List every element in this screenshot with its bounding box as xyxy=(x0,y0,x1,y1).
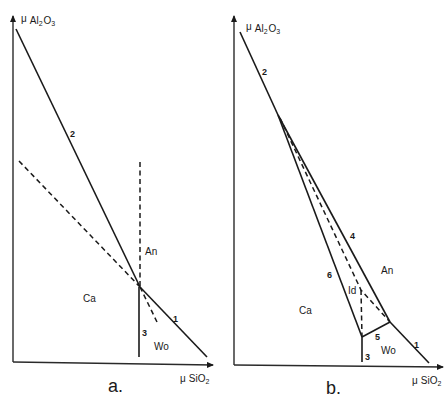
panel-a-x-axis-label: μSiO2 xyxy=(180,373,209,385)
panel-b-label-3: 3 xyxy=(365,352,370,362)
panel-b-x-axis xyxy=(234,365,443,367)
panel-b-line-4 xyxy=(278,115,390,322)
panel-b-line-1 xyxy=(390,322,429,363)
panel-b-region-wo: Wo xyxy=(381,345,396,356)
panel-a-y-axis-label: μAl2O3 xyxy=(21,13,55,27)
panel-b: μAl2O3 μSiO2 2 4 An 6 Id Ca 5 1 Wo 3 xyxy=(234,16,443,398)
panel-b-region-an: An xyxy=(381,265,393,276)
panel-b-x-axis-label: μSiO2 xyxy=(412,375,441,387)
panel-a: μAl2O3 μSiO2 2 An Ca 1 3 Wo a. xyxy=(13,13,213,396)
panel-b-label-6: 6 xyxy=(327,270,332,280)
panel-a-dashed-extension xyxy=(140,287,157,322)
panel-a-region-ca: Ca xyxy=(83,293,96,304)
panel-b-line-6 xyxy=(278,115,362,337)
panel-a-line-2 xyxy=(16,29,140,287)
panel-b-label-2: 2 xyxy=(262,67,267,77)
panel-b-label-1: 1 xyxy=(414,340,419,350)
panel-b-y-axis-label: μAl2O3 xyxy=(246,21,280,35)
phase-diagram-figure: μAl2O3 μSiO2 2 An Ca 1 3 Wo a. μAl2O3 xyxy=(0,0,447,407)
panel-a-dashed-left xyxy=(19,161,140,287)
panel-b-region-id: Id xyxy=(348,285,356,296)
panel-a-region-an: An xyxy=(145,246,157,257)
panel-b-label-5: 5 xyxy=(375,332,380,342)
panel-a-label-3: 3 xyxy=(142,328,147,338)
panel-a-region-wo: Wo xyxy=(154,341,169,352)
panel-a-label-2: 2 xyxy=(70,129,75,139)
panel-a-caption: a. xyxy=(108,376,123,396)
panel-b-caption: b. xyxy=(326,378,341,398)
panel-a-x-axis xyxy=(13,362,213,365)
panel-b-dashed-vertical xyxy=(361,290,362,337)
panel-b-line-2 xyxy=(240,32,278,115)
panel-b-label-4: 4 xyxy=(350,231,355,241)
panel-a-label-1: 1 xyxy=(173,314,178,324)
panel-b-region-ca: Ca xyxy=(299,305,312,316)
